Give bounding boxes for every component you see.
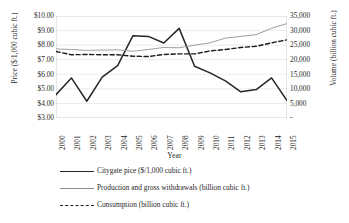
legend-item-consumption: Consumption (billion cubic ft.): [60, 196, 349, 213]
x-tick-label: 2001: [74, 135, 81, 150]
y-left-tick-label: $8.00: [18, 41, 54, 48]
legend-label-production: Production and gross withdrawals (billio…: [94, 183, 250, 192]
legend-item-production: Production and gross withdrawals (billio…: [60, 179, 349, 196]
y-left-tick-label: $3.00: [18, 114, 54, 121]
y-left-tick-label: $4.00: [18, 100, 54, 107]
chart-figure: Price ($/1,000 cubic ft.) Volume (billio…: [0, 0, 349, 223]
y-right-tick-label: 25,000: [290, 41, 326, 48]
x-tick-label: 2007: [167, 135, 174, 150]
y-axis-right-title: Volume (billion cubic ft.): [330, 2, 338, 94]
x-axis-title: Year: [0, 151, 349, 160]
x-tick-label: 2006: [151, 135, 158, 150]
x-tick-label: 2012: [244, 135, 251, 150]
legend-key-dashed-line-icon: [60, 200, 94, 210]
y-left-tick-label: $6.00: [18, 71, 54, 78]
x-tick-label: 2011: [228, 136, 235, 150]
legend-label-consumption: Consumption (billion cubic ft.): [94, 200, 189, 209]
y-left-tick-label: $7.00: [18, 56, 54, 63]
y-left-tick-label: $5.00: [18, 85, 54, 92]
y-right-tick-label: 20,000: [290, 56, 326, 63]
y-right-tick-label: 15,000: [290, 71, 326, 78]
chart-legend: Citygate pice ($/1,000 cubic ft.) Produc…: [60, 162, 349, 213]
legend-item-citygate-price: Citygate pice ($/1,000 cubic ft.): [60, 162, 349, 179]
legend-key-thin-line-icon: [60, 183, 94, 193]
x-tick-label: 2013: [259, 135, 266, 150]
y-right-tick-label: 10,000: [290, 85, 326, 92]
x-tick-label: 2015: [290, 135, 297, 150]
plot-area: [56, 16, 287, 118]
x-tick-label: 2002: [90, 135, 97, 150]
y-axis-left-ticks: $3.00$4.00$5.00$6.00$7.00$8.00$9.00$10.0…: [13, 0, 54, 223]
legend-key-solid-line-icon: [60, 166, 94, 176]
x-tick-label: 2000: [59, 135, 66, 150]
legend-label-citygate-price: Citygate pice ($/1,000 cubic ft.): [94, 166, 191, 175]
x-tick-label: 2009: [198, 135, 205, 150]
y-left-tick-label: $10.00: [18, 12, 54, 19]
y-right-tick-label: 5,000: [290, 100, 326, 107]
y-right-tick-label: 30,000: [290, 27, 326, 34]
y-left-tick-label: $9.00: [18, 27, 54, 34]
x-tick-label: 2010: [213, 135, 220, 150]
x-tick-label: 2005: [136, 135, 143, 150]
series-line-2: [56, 40, 287, 57]
x-tick-label: 2004: [121, 135, 128, 150]
x-tick-label: 2014: [275, 135, 282, 150]
y-right-tick-label: -: [290, 114, 326, 121]
y-right-tick-label: 35,000: [290, 12, 326, 19]
x-axis-ticks: 2000200120022003200420052006200720082009…: [56, 120, 287, 154]
x-tick-label: 2008: [182, 135, 189, 150]
series-line-0: [56, 28, 287, 101]
plot-svg: [56, 16, 287, 118]
x-tick-label: 2003: [105, 135, 112, 150]
